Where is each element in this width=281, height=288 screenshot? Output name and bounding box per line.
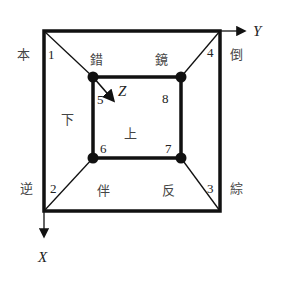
- region-label-top-left: 錯: [90, 52, 103, 67]
- region-label-center: 上: [124, 126, 137, 141]
- node-4-label: 4: [207, 45, 214, 60]
- y-axis-label: Y: [253, 23, 263, 39]
- node-5-label: 5: [97, 92, 104, 107]
- node-8-label: 8: [162, 91, 169, 106]
- vertex-8-dot: [176, 72, 187, 83]
- outer-label-bottom-left: 逆: [20, 181, 33, 196]
- node-2-label: 2: [50, 181, 57, 196]
- vertex-5-dot: [88, 72, 99, 83]
- x-axis-label: X: [37, 249, 48, 265]
- cube-projection-diagram: Y X Z 1 2 3 4 5 6 7 8 本 倒 逆 綜 錯 鏡 下 上 伴 …: [0, 0, 281, 288]
- edge-4-8: [181, 31, 220, 77]
- region-label-bottom-right: 反: [162, 183, 175, 198]
- region-label-top-right: 鏡: [155, 52, 168, 67]
- region-label-left: 下: [61, 112, 74, 127]
- node-6-label: 6: [100, 141, 107, 156]
- outer-label-top-right: 倒: [230, 47, 243, 62]
- node-1-label: 1: [48, 47, 55, 62]
- outer-label-top-left: 本: [17, 47, 30, 62]
- outer-label-bottom-right: 綜: [230, 181, 243, 196]
- edge-3-7: [181, 158, 220, 211]
- z-axis-label: Z: [118, 83, 127, 99]
- vertex-6-dot: [88, 153, 99, 164]
- vertex-7-dot: [176, 153, 187, 164]
- node-7-label: 7: [165, 141, 172, 156]
- region-label-bottom-left: 伴: [97, 183, 110, 198]
- node-3-label: 3: [207, 181, 214, 196]
